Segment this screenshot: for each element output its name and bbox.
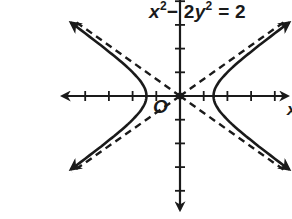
asymptote-negative-lower [180,96,284,170]
asymptote-negative [76,22,180,96]
eq-x: x [149,1,160,22]
eq-mid: − 2 [167,1,195,22]
asymptote-positive [180,22,284,96]
origin-dot [177,93,184,100]
hyperbola-graph [0,0,292,219]
x-axis-label: x [287,100,292,120]
eq-end: = 2 [213,1,246,22]
eq-exp1: 2 [160,0,167,13]
eq-y: y [195,1,206,22]
equation-label: x2− 2y2 = 2 [149,1,246,23]
axes [62,0,288,210]
eq-exp2: 2 [206,0,213,13]
origin-label: O [153,96,168,118]
